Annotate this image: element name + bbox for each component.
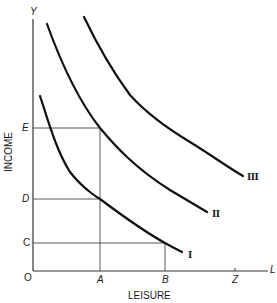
curve-label-3: III bbox=[247, 171, 258, 181]
x-tick-z: Z bbox=[232, 275, 238, 285]
x-axis-title: LEISURE bbox=[128, 290, 171, 301]
x-tick-a: A bbox=[97, 275, 104, 285]
x-tick-b: B bbox=[162, 275, 169, 285]
y-tick-c: C bbox=[23, 238, 30, 248]
indifference-curve-1 bbox=[40, 96, 182, 252]
curve-label-2: II bbox=[212, 208, 220, 218]
curve-label-1: I bbox=[188, 249, 192, 259]
y-tick-e: E bbox=[22, 123, 29, 133]
x-axis-symbol: L bbox=[270, 265, 276, 275]
y-axis-symbol: Y bbox=[30, 7, 37, 17]
indifference-curve-2 bbox=[47, 24, 207, 212]
y-axis-title: INCOME bbox=[3, 132, 14, 172]
y-tick-d: D bbox=[22, 194, 29, 204]
indifference-curve-diagram bbox=[0, 0, 277, 303]
indifference-curve-3 bbox=[84, 17, 243, 176]
origin-label: O bbox=[24, 273, 32, 283]
